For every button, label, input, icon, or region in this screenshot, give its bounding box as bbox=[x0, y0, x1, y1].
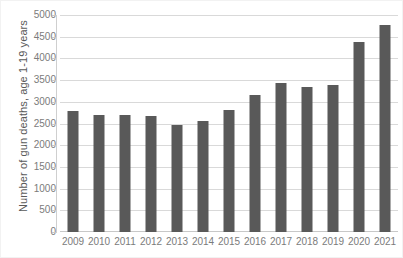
bar-slot bbox=[164, 15, 190, 232]
y-tick-mark bbox=[52, 167, 56, 168]
y-tick-label: 2000 bbox=[18, 140, 56, 150]
y-tick-label: 1000 bbox=[18, 184, 56, 194]
x-tick-label-2014: 2014 bbox=[190, 236, 216, 248]
bar-slot bbox=[86, 15, 112, 232]
x-tick-label-2012: 2012 bbox=[138, 236, 164, 248]
bar-2016[interactable] bbox=[250, 95, 261, 232]
bars-layer bbox=[60, 15, 398, 232]
y-tick-label: 4500 bbox=[18, 32, 56, 42]
y-tick-label: 1500 bbox=[18, 162, 56, 172]
x-tick-label-2009: 2009 bbox=[60, 236, 86, 248]
x-tick-label-2018: 2018 bbox=[294, 236, 320, 248]
x-tick-label-2016: 2016 bbox=[242, 236, 268, 248]
y-tick-mark bbox=[52, 102, 56, 103]
bar-slot bbox=[242, 15, 268, 232]
bar-2012[interactable] bbox=[146, 116, 157, 232]
y-axis-spine bbox=[56, 15, 57, 233]
y-tick-mark bbox=[52, 80, 56, 81]
bar-2019[interactable] bbox=[328, 85, 339, 232]
x-tick-label-2010: 2010 bbox=[86, 236, 112, 248]
y-tick-mark bbox=[52, 145, 56, 146]
bar-slot bbox=[268, 15, 294, 232]
y-tick-label: 2500 bbox=[18, 119, 56, 129]
bar-slot bbox=[60, 15, 86, 232]
bar-2018[interactable] bbox=[302, 87, 313, 232]
y-tick-mark bbox=[52, 232, 56, 233]
bar-slot bbox=[320, 15, 346, 232]
x-tick-label-2021: 2021 bbox=[372, 236, 398, 248]
plot-area bbox=[60, 15, 398, 232]
y-tick-mark bbox=[52, 189, 56, 190]
y-tick-label: 3000 bbox=[18, 97, 56, 107]
bar-slot bbox=[294, 15, 320, 232]
y-tick-label: 4000 bbox=[18, 53, 56, 63]
y-axis-tick-labels: 0500100015002000250030003500400045005000 bbox=[18, 0, 56, 257]
x-tick-label-2013: 2013 bbox=[164, 236, 190, 248]
bar-2013[interactable] bbox=[172, 125, 183, 232]
y-tick-label: 3500 bbox=[18, 75, 56, 85]
y-tick-mark bbox=[52, 210, 56, 211]
x-tick-label-2020: 2020 bbox=[346, 236, 372, 248]
y-tick-label: 500 bbox=[18, 205, 56, 215]
bar-slot bbox=[138, 15, 164, 232]
x-axis-tick-labels: 2009201020112012201320142015201620172018… bbox=[60, 234, 398, 254]
x-tick-label-2015: 2015 bbox=[216, 236, 242, 248]
bar-slot bbox=[112, 15, 138, 232]
bar-2010[interactable] bbox=[94, 115, 105, 232]
bar-2009[interactable] bbox=[68, 111, 79, 232]
bar-2014[interactable] bbox=[198, 121, 209, 232]
x-tick-label-2011: 2011 bbox=[112, 236, 138, 248]
bar-2020[interactable] bbox=[354, 42, 365, 232]
x-tick-label-2017: 2017 bbox=[268, 236, 294, 248]
bar-2017[interactable] bbox=[276, 83, 287, 232]
y-tick-label: 5000 bbox=[18, 10, 56, 20]
x-tick-label-2019: 2019 bbox=[320, 236, 346, 248]
y-tick-mark bbox=[52, 37, 56, 38]
y-tick-mark bbox=[52, 58, 56, 59]
bar-slot bbox=[216, 15, 242, 232]
y-tick-mark bbox=[52, 15, 56, 16]
bar-2011[interactable] bbox=[120, 115, 131, 232]
bar-slot bbox=[190, 15, 216, 232]
bar-2021[interactable] bbox=[380, 25, 391, 232]
bar-2015[interactable] bbox=[224, 110, 235, 232]
bar-slot bbox=[372, 15, 398, 232]
bar-slot bbox=[346, 15, 372, 232]
y-tick-mark bbox=[52, 124, 56, 125]
y-tick-label: 0 bbox=[18, 227, 56, 237]
